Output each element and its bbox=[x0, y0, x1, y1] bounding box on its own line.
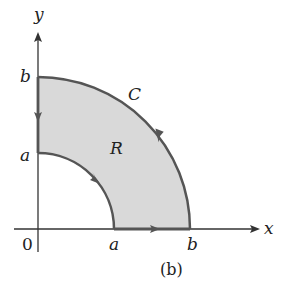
diagram-svg bbox=[0, 0, 288, 284]
y-tick-a: a bbox=[20, 147, 30, 164]
curve-label: C bbox=[128, 86, 141, 103]
caption: (b) bbox=[160, 262, 183, 278]
x-tick-b: b bbox=[187, 236, 198, 253]
figure: y x 0 b a a b C R (b) bbox=[0, 0, 288, 284]
region-label: R bbox=[110, 140, 123, 157]
origin-label: 0 bbox=[22, 236, 33, 253]
x-tick-a: a bbox=[109, 236, 119, 253]
y-axis-label: y bbox=[34, 6, 44, 23]
y-tick-b: b bbox=[20, 68, 31, 85]
x-axis-label: x bbox=[264, 220, 274, 237]
